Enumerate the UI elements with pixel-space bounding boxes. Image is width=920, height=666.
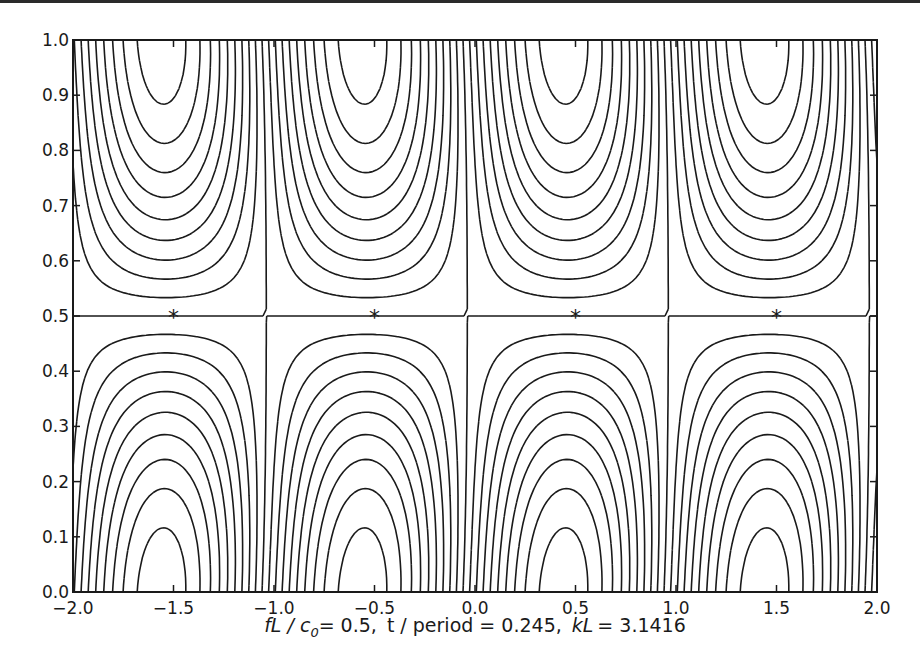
- x-tick-label: 2.0: [863, 598, 890, 618]
- contour-chart: **** −2.0−1.5−1.0−0.50.00.51.01.52.0 0.0…: [0, 0, 920, 666]
- y-tick-label: 0.4: [42, 361, 69, 381]
- y-tick-label: 0.6: [42, 251, 69, 271]
- y-tick-label: 0.9: [42, 85, 69, 105]
- x-tick-label: 1.5: [763, 598, 790, 618]
- y-tick-label: 1.0: [42, 30, 69, 50]
- star-marker-icon: *: [369, 305, 380, 330]
- y-tick-label: 0.3: [42, 416, 69, 436]
- contour-lines: [73, 40, 877, 592]
- x-axis-label: fL / c0= 0.5,t / period = 0.245,kL= 3.14…: [264, 614, 686, 640]
- star-marker-icon: *: [771, 305, 782, 330]
- y-tick-label: 0.0: [42, 582, 69, 602]
- y-tick-label: 0.8: [42, 140, 69, 160]
- x-tick-label: −1.5: [153, 598, 194, 618]
- star-marker-icon: *: [570, 305, 581, 330]
- star-marker-icon: *: [168, 305, 179, 330]
- saddle-markers: ****: [168, 305, 782, 330]
- contour-positive: [73, 40, 877, 592]
- y-tick-label: 0.7: [42, 196, 69, 216]
- y-tick-label: 0.2: [42, 472, 69, 492]
- y-tick-label: 0.1: [42, 527, 69, 547]
- y-tick-label: 0.5: [42, 306, 69, 326]
